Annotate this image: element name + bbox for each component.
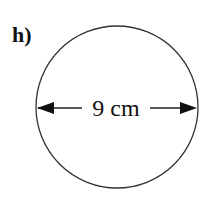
circle-diagram: 9 cm [0, 0, 218, 197]
diameter-label: 9 cm [92, 95, 140, 121]
arrowhead-right-icon [180, 102, 197, 114]
arrowhead-left-icon [37, 102, 54, 114]
